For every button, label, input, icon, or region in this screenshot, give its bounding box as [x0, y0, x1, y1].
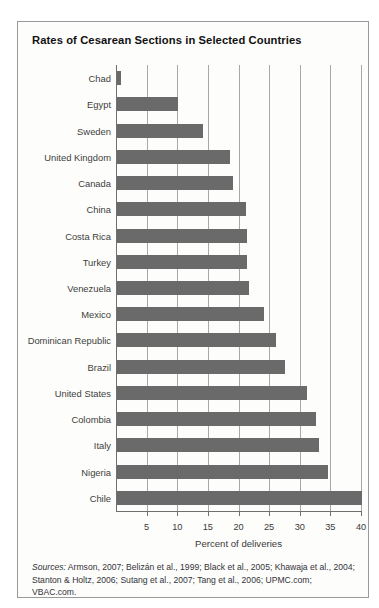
bar-row: United Kingdom	[117, 150, 230, 164]
bar-row: Colombia	[117, 412, 316, 426]
category-label: Costa Rica	[65, 230, 111, 241]
bar-row: Brazil	[117, 360, 285, 374]
tick-5	[147, 511, 148, 516]
x-tick-label: 15	[203, 522, 213, 532]
category-label: Dominican Republic	[28, 335, 111, 346]
bar	[117, 281, 249, 295]
category-label: Colombia	[71, 414, 111, 425]
bar	[117, 97, 178, 111]
bar	[117, 229, 247, 243]
bar-row: Costa Rica	[117, 229, 247, 243]
tick-15	[208, 511, 209, 516]
bar	[117, 307, 264, 321]
tick-20	[239, 511, 240, 516]
bar-row: Turkey	[117, 255, 247, 269]
bar	[117, 491, 362, 505]
bar	[117, 465, 328, 479]
bar-row: Venezuela	[117, 281, 249, 295]
chart-title: Rates of Cesarean Sections in Selected C…	[32, 34, 302, 46]
figure-panel: Rates of Cesarean Sections in Selected C…	[17, 21, 369, 598]
category-label: Egypt	[87, 99, 111, 110]
tick-35	[330, 511, 331, 516]
bar	[117, 438, 319, 452]
x-axis-label: Percent of deliveries	[116, 538, 361, 549]
bar	[117, 255, 247, 269]
x-tick-label: 40	[356, 522, 366, 532]
bar-row: China	[117, 202, 246, 216]
gridline-35	[330, 65, 331, 511]
bar-row: Italy	[117, 438, 319, 452]
x-tick-label: 5	[144, 522, 149, 532]
bar	[117, 386, 307, 400]
bar	[117, 71, 121, 85]
bar-row: Chad	[117, 71, 121, 85]
category-label: Sweden	[77, 125, 111, 136]
tick-10	[177, 511, 178, 516]
bar	[117, 202, 246, 216]
bar-row: Sweden	[117, 124, 203, 138]
bar-row: Mexico	[117, 307, 264, 321]
tick-30	[300, 511, 301, 516]
bar-row: Egypt	[117, 97, 178, 111]
bar	[117, 412, 316, 426]
category-label: Chad	[89, 73, 111, 84]
bar	[117, 150, 230, 164]
tick-25	[269, 511, 270, 516]
bar-row: Chile	[117, 491, 362, 505]
category-label: China	[87, 204, 112, 215]
category-label: Nigeria	[81, 466, 111, 477]
tick-40	[361, 511, 362, 516]
gridline-40	[361, 65, 362, 511]
x-tick-label: 25	[264, 522, 274, 532]
category-label: Italy	[94, 440, 111, 451]
x-tick-label: 35	[325, 522, 335, 532]
category-label: Venezuela	[67, 283, 111, 294]
category-label: Brazil	[88, 361, 111, 372]
bar-row: Canada	[117, 176, 233, 190]
category-label: Canada	[78, 178, 111, 189]
x-tick-label: 20	[233, 522, 243, 532]
category-label: United States	[55, 387, 111, 398]
bar	[117, 360, 285, 374]
category-label: Chile	[90, 492, 111, 503]
plot-area: 510152025303540 ChadEgyptSwedenUnited Ki…	[116, 65, 361, 511]
sources-lead: Sources:	[32, 562, 66, 572]
bar-row: United States	[117, 386, 307, 400]
category-label: United Kingdom	[44, 151, 111, 162]
bar	[117, 124, 203, 138]
category-label: Turkey	[83, 256, 111, 267]
category-label: Mexico	[81, 309, 111, 320]
bar	[117, 333, 276, 347]
bar-row: Dominican Republic	[117, 333, 276, 347]
sources-note: Sources: Armson, 2007; Belizán et al., 1…	[32, 561, 356, 599]
bar	[117, 176, 233, 190]
x-tick-label: 10	[172, 522, 182, 532]
x-tick-label: 30	[295, 522, 305, 532]
sources-text: Armson, 2007; Belizán et al., 1999; Blac…	[32, 562, 355, 597]
bar-row: Nigeria	[117, 465, 328, 479]
